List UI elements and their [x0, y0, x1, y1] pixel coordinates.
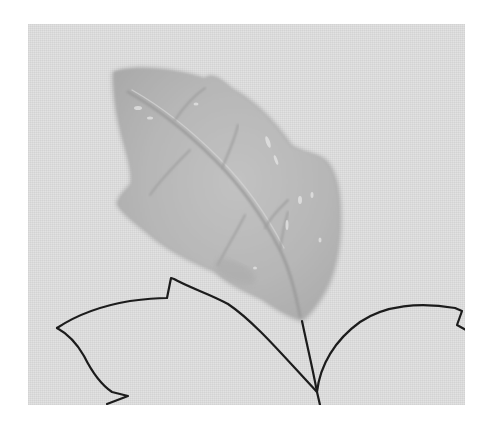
image-canvas: Glossy molded leaf on fabric with drawn … [0, 0, 484, 428]
outline-right-leaf [317, 305, 466, 392]
molded-leaf [112, 67, 341, 322]
leaf-scene [0, 0, 484, 428]
outline-left-leaf-lower [57, 328, 128, 404]
